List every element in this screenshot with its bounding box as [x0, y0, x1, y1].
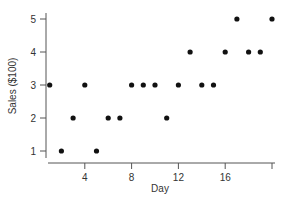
data-point — [246, 49, 251, 54]
data-point — [129, 82, 134, 87]
x-tick-label: 4 — [82, 172, 88, 183]
y-tick-label: 4 — [30, 47, 36, 58]
y-tick-label: 5 — [30, 14, 36, 25]
data-point — [199, 82, 204, 87]
data-point — [59, 148, 64, 153]
y-tick-label: 1 — [30, 146, 36, 157]
data-point — [223, 49, 228, 54]
data-point — [47, 82, 52, 87]
y-tick-label: 2 — [30, 113, 36, 124]
data-point — [82, 82, 87, 87]
data-point — [188, 49, 193, 54]
data-points — [47, 16, 275, 153]
y-axis: 12345 — [30, 13, 46, 158]
data-point — [234, 16, 239, 21]
x-axis-title: Day — [151, 183, 169, 194]
data-point — [71, 115, 76, 120]
data-point — [117, 115, 122, 120]
x-tick-label: 8 — [129, 172, 135, 183]
data-point — [164, 115, 169, 120]
data-point — [269, 16, 274, 21]
x-tick-label: 12 — [173, 172, 185, 183]
data-point — [258, 49, 263, 54]
data-point — [152, 82, 157, 87]
y-axis-title: Sales ($100) — [7, 58, 18, 115]
x-tick-label: 16 — [220, 172, 232, 183]
y-tick-label: 3 — [30, 80, 36, 91]
data-point — [94, 148, 99, 153]
data-point — [141, 82, 146, 87]
data-point — [176, 82, 181, 87]
data-point — [211, 82, 216, 87]
x-axis: 481216 — [48, 163, 275, 183]
data-point — [106, 115, 111, 120]
scatter-chart: 12345 481216 Day Sales ($100) — [0, 0, 291, 206]
